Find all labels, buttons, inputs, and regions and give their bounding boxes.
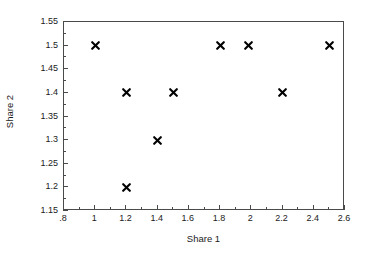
scatter-chart: .811.21.41.61.822.22.42.6 1.151.21.251.3… [0, 0, 365, 257]
y-tick-label: 1.45 [40, 63, 58, 74]
y-tick-label: 1.3 [45, 134, 58, 145]
x-tick-label: 2.2 [275, 213, 288, 224]
x-tick-label: 2 [248, 213, 253, 224]
x-axis-title: Share 1 [63, 233, 344, 244]
x-tick-label: 1 [92, 213, 97, 224]
y-tick-label: 1.4 [45, 86, 58, 97]
x-tick-label: 1.2 [119, 213, 132, 224]
x-tick-label: 1.6 [182, 213, 195, 224]
y-tick-label: 1.35 [40, 110, 58, 121]
x-tick-label: 1.8 [213, 213, 226, 224]
x-tick-label: .8 [59, 213, 67, 224]
y-tick-label: 1.25 [40, 157, 58, 168]
y-tick-label: 1.55 [40, 16, 58, 27]
y-tick-label: 1.2 [45, 181, 58, 192]
x-tick-label: 2.4 [307, 213, 320, 224]
y-axis-title: Share 2 [4, 82, 15, 142]
y-tick-label: 1.15 [40, 205, 58, 216]
y-tick-label: 1.5 [45, 39, 58, 50]
x-tick-label: 2.6 [338, 213, 351, 224]
x-tick-label: 1.4 [150, 213, 163, 224]
